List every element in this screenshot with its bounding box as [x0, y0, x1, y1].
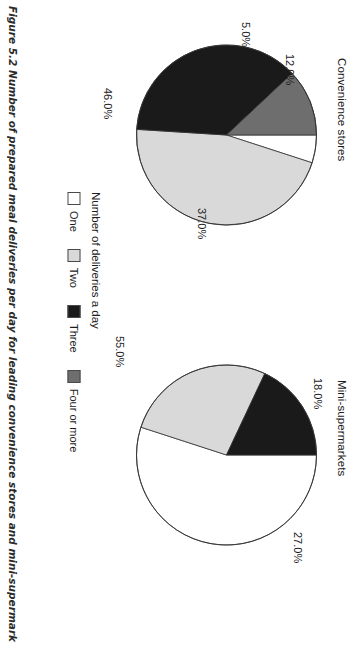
pie-chart-mini-supermarkets [133, 362, 319, 548]
legend-item-label: Three [68, 324, 80, 353]
legend-swatch-icon [67, 192, 80, 205]
pie-slice-label-convenience-three: 37.0% [195, 208, 207, 239]
legend-item-label: Two [68, 268, 80, 288]
legend-item[interactable]: One [67, 192, 80, 232]
pie-slice-label-mini-two: 27.0% [291, 532, 303, 563]
legend-item[interactable]: Three [67, 305, 80, 353]
chart-title-convenience-stores: Convenience stores [335, 58, 347, 161]
legend-title: Number of deliveries a day [89, 192, 101, 492]
pie-slice-label-convenience-two: 46.0% [101, 88, 113, 119]
legend-swatch-icon [67, 370, 80, 383]
pie-slice-label-convenience-one: 5.0% [239, 22, 251, 47]
pie-slice-label-convenience-four-or-more: 12.0% [283, 54, 295, 85]
legend: Number of deliveries a day OneTwoThreeFo… [67, 192, 101, 492]
legend-item[interactable]: Four or more [67, 370, 80, 453]
legend-item[interactable]: Two [67, 249, 80, 288]
legend-item-label: Four or more [68, 389, 80, 453]
figure-caption: Figure 5.2 Number of prepared meal deliv… [6, 6, 18, 642]
pie-chart-mini-supermarkets-svg [133, 362, 319, 548]
legend-items: OneTwoThreeFour or more [67, 192, 80, 492]
figure-canvas: Convenience stores Mini-supermarkets 5.0… [0, 0, 363, 648]
pie-slice-label-mini-one: 55.0% [113, 336, 125, 367]
legend-item-label: One [68, 211, 80, 232]
page-rotation-wrapper: Convenience stores Mini-supermarkets 5.0… [0, 0, 363, 648]
chart-title-mini-supermarkets: Mini-supermarkets [335, 380, 347, 476]
legend-swatch-icon [67, 249, 80, 262]
pie-slice-label-mini-three: 18.0% [311, 378, 323, 409]
legend-swatch-icon [67, 305, 80, 318]
